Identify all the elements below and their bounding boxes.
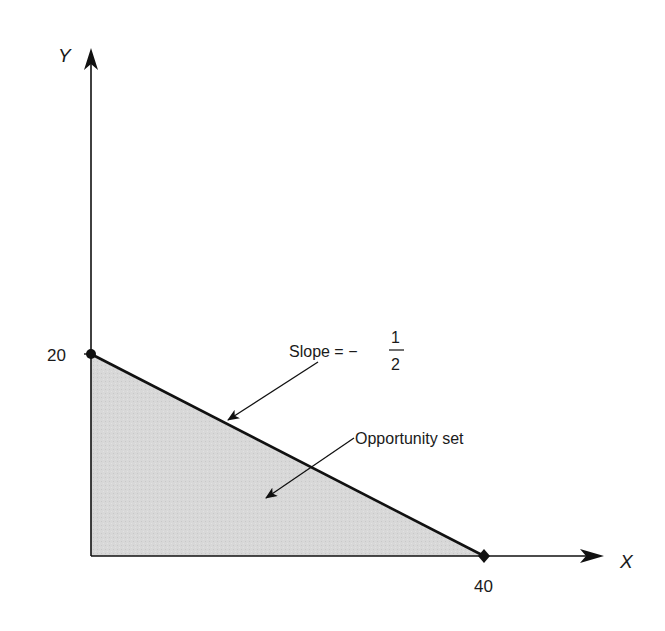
y-axis-label: Y [58,45,72,66]
slope-numerator: 1 [391,329,400,346]
opportunity-set-diagram: Y X 20 40 Slope = − 1 2 Opportunity set [0,0,665,631]
y-tick-label: 20 [47,346,66,365]
slope-denominator: 2 [391,356,400,373]
slope-label: Slope = − [289,343,358,360]
opportunity-set-label: Opportunity set [355,430,464,447]
y-intercept-point [86,349,96,359]
x-axis-label: X [619,551,634,572]
slope-pointer-arrow [228,362,318,420]
x-intercept-point [478,549,490,563]
x-tick-label: 40 [474,577,493,596]
